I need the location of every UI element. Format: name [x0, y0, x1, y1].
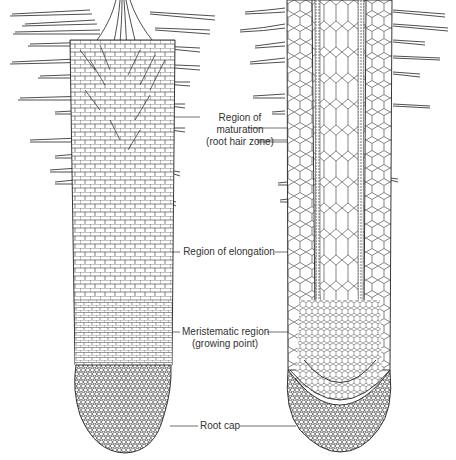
- label-line: Region of elongation: [182, 246, 276, 258]
- label-line: (root hair zone): [200, 136, 280, 148]
- label-line: (growing point): [182, 338, 268, 350]
- leader-lines: [170, 117, 296, 426]
- label-line: Meristematic region: [182, 326, 268, 338]
- root-tip-diagram: [0, 0, 456, 460]
- label-root-cap: Root cap: [199, 420, 241, 432]
- label-elongation: Region of elongation: [182, 246, 276, 258]
- label-line: Region of: [200, 112, 280, 124]
- right-root-section-view: [240, 0, 448, 452]
- label-line: maturation: [200, 124, 280, 136]
- label-maturation: Region of maturation (root hair zone): [200, 112, 280, 148]
- label-line: Root cap: [199, 420, 241, 432]
- label-meristematic: Meristematic region (growing point): [182, 326, 268, 350]
- left-root-external-view: [10, 0, 215, 453]
- root-cap-left: [75, 365, 171, 453]
